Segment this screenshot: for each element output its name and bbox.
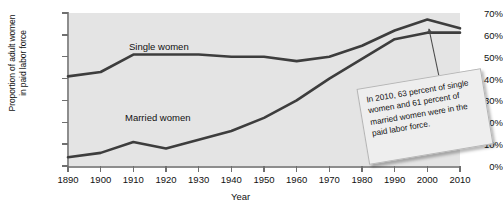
x-axis-title: Year bbox=[231, 191, 250, 202]
labor-force-line-chart: Proportion of adult women in paid labor … bbox=[0, 0, 503, 217]
callout-text: In 2010, 63 percent of single women and … bbox=[366, 76, 484, 139]
